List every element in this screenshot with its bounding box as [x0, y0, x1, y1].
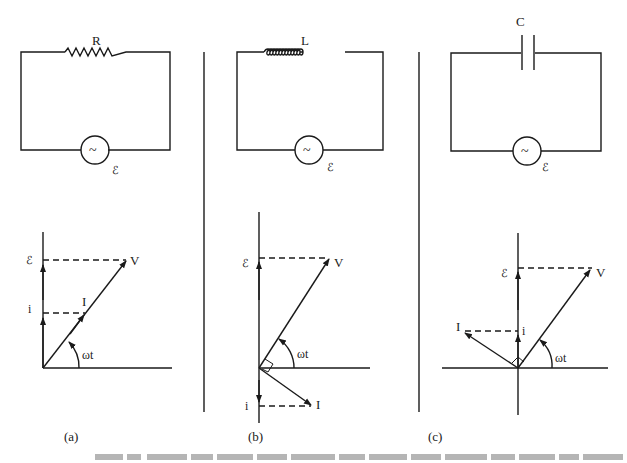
panel-label-b: (b) — [248, 429, 263, 444]
current-proj-label-a: i — [28, 302, 32, 316]
inductor-coil-icon — [264, 49, 303, 55]
current-label-c: I — [456, 319, 460, 334]
figure-caption-truncated — [95, 450, 627, 463]
caption-blurred-text — [95, 450, 627, 463]
current-label-a: I — [82, 294, 86, 309]
angle-label-c: ωt — [555, 351, 567, 365]
component-label-c: C — [516, 14, 525, 29]
angle-label-a: ωt — [82, 348, 94, 362]
current-label-b: I — [316, 397, 320, 412]
emf-source-label-b: ℰ — [327, 161, 334, 173]
emf-source-label-c: ℰ — [542, 161, 549, 173]
ac-circuit-figure: R L C ~ ~ ~ ℰ ℰ ℰ ℰ i V I ωt ℰ i V I ωt … — [0, 0, 627, 463]
angle-label-b: ωt — [297, 347, 309, 361]
voltage-label-a: V — [130, 253, 140, 268]
emf-label-a: ℰ — [26, 254, 33, 266]
phasor-diagram-b — [259, 212, 370, 423]
resistor-icon — [65, 48, 131, 56]
voltage-label-c: V — [596, 265, 606, 280]
emf-source-label-a: ℰ — [112, 164, 119, 176]
ac-source-symbol-a: ~ — [89, 143, 97, 158]
component-label-a: R — [92, 33, 101, 48]
ac-source-symbol-b: ~ — [303, 143, 311, 158]
voltage-label-b: V — [334, 255, 344, 270]
component-label-b: L — [301, 33, 309, 48]
current-proj-label-b: i — [245, 399, 249, 413]
ac-source-symbol-c: ~ — [521, 144, 529, 159]
emf-label-c: ℰ — [501, 267, 508, 279]
emf-label-b: ℰ — [242, 257, 249, 269]
panel-label-c: (c) — [428, 429, 442, 444]
phasor-diagram-a — [43, 232, 172, 368]
panel-label-a: (a) — [64, 429, 78, 444]
current-proj-label-c: i — [522, 324, 526, 338]
